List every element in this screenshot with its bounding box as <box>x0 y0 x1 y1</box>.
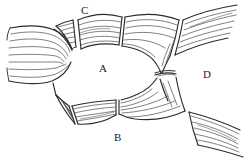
lower-right-tail-fibers <box>191 116 239 152</box>
muscle-band-diagram: A B C D <box>0 0 245 159</box>
label-b: B <box>114 132 121 143</box>
label-c: C <box>81 5 88 16</box>
label-d: D <box>203 69 211 80</box>
upper-right-y-junction <box>122 15 179 73</box>
upper-center-band <box>78 15 122 49</box>
left-bundle-fibers <box>9 32 70 77</box>
upper-left-band <box>54 20 76 50</box>
upper-right-tail-segment <box>175 5 237 55</box>
central-isthmus <box>155 73 176 76</box>
lower-center-band <box>72 100 116 124</box>
label-a: A <box>99 63 107 74</box>
upper-center-band-fibers <box>79 20 121 45</box>
lower-left-band <box>53 83 75 124</box>
lower-right-tail-segment <box>189 112 243 157</box>
upper-right-tail-fibers <box>178 10 236 48</box>
lower-right-y-junction <box>119 77 185 120</box>
